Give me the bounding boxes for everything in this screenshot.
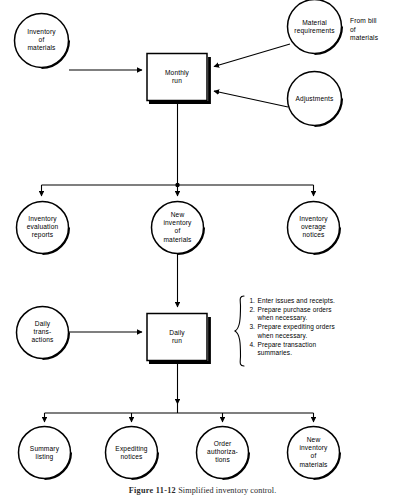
step-text: Enter issues and receipts. [258, 297, 398, 306]
daily-run-step-list: 1. Enter issues and receipts. 2. Prepare… [247, 297, 397, 358]
flowchart-diagram: Inventory of materials Monthly run Mater… [0, 0, 405, 500]
step-number: 1. [247, 297, 258, 306]
circle-summary-listing [19, 427, 71, 479]
arrow-material-requirements-to-monthly-run [214, 44, 290, 67]
figure-caption-text: Simplified inventory control. [178, 486, 276, 495]
junction-dot-monthly-bus [175, 183, 179, 187]
step-text: Prepare expediting orders when necessary… [258, 323, 398, 340]
circle-expediting-notices [106, 427, 158, 479]
box-monthly-run [147, 54, 207, 101]
box-daily-run [147, 314, 207, 361]
step-number: 3. [247, 323, 258, 340]
list-item: 4. Prepare transaction summaries. [247, 341, 397, 358]
circle-daily-transactions [17, 307, 69, 359]
circle-inventory-overage-notices [288, 202, 340, 254]
circle-inventory-of-materials [15, 14, 69, 68]
circle-new-inventory-of-materials-out [288, 427, 340, 479]
arrow-adjustments-to-monthly-run [214, 91, 288, 107]
circle-inventory-evaluation-reports [17, 202, 69, 254]
list-item: 2. Prepare purchase orders when necessar… [247, 306, 397, 323]
figure-number: Figure 11-12 [129, 486, 176, 495]
step-text: Prepare purchase orders when necessary. [258, 306, 398, 323]
step-number: 4. [247, 341, 258, 358]
circle-adjustments [288, 72, 342, 126]
circle-new-inventory-of-materials [152, 202, 204, 254]
step-number: 2. [247, 306, 258, 323]
list-item: 3. Prepare expediting orders when necess… [247, 323, 397, 340]
step-text: Prepare transaction summaries. [258, 341, 398, 358]
figure-caption: Figure 11-12 Simplified inventory contro… [0, 486, 405, 495]
annotation-from-bill-of-materials: From bill of materials [350, 17, 405, 43]
circle-order-authorizations [197, 427, 249, 479]
circle-material-requirements [288, 0, 342, 54]
list-item: 1. Enter issues and receipts. [247, 297, 397, 306]
daily-run-brace [235, 296, 244, 366]
flowchart-graphics [0, 0, 405, 500]
